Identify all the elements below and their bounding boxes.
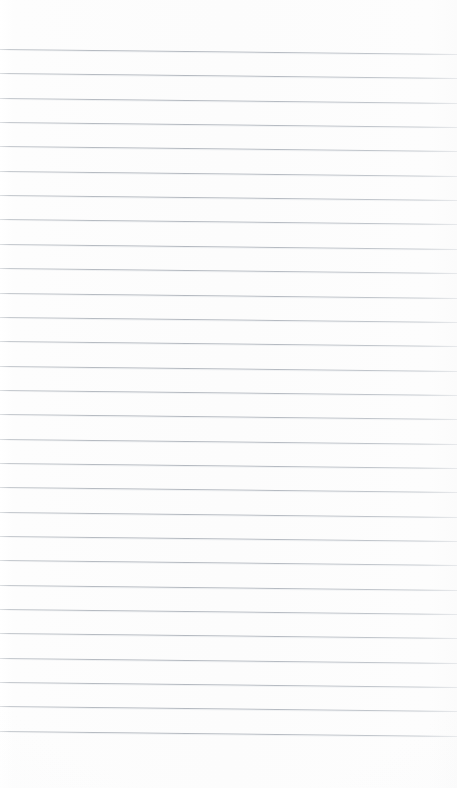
page-text-area[interactable] (0, 49, 457, 731)
bottom-margin-area (0, 733, 457, 788)
notebook-page (0, 0, 457, 788)
ruled-line (0, 731, 457, 737)
top-margin-area (0, 0, 457, 49)
